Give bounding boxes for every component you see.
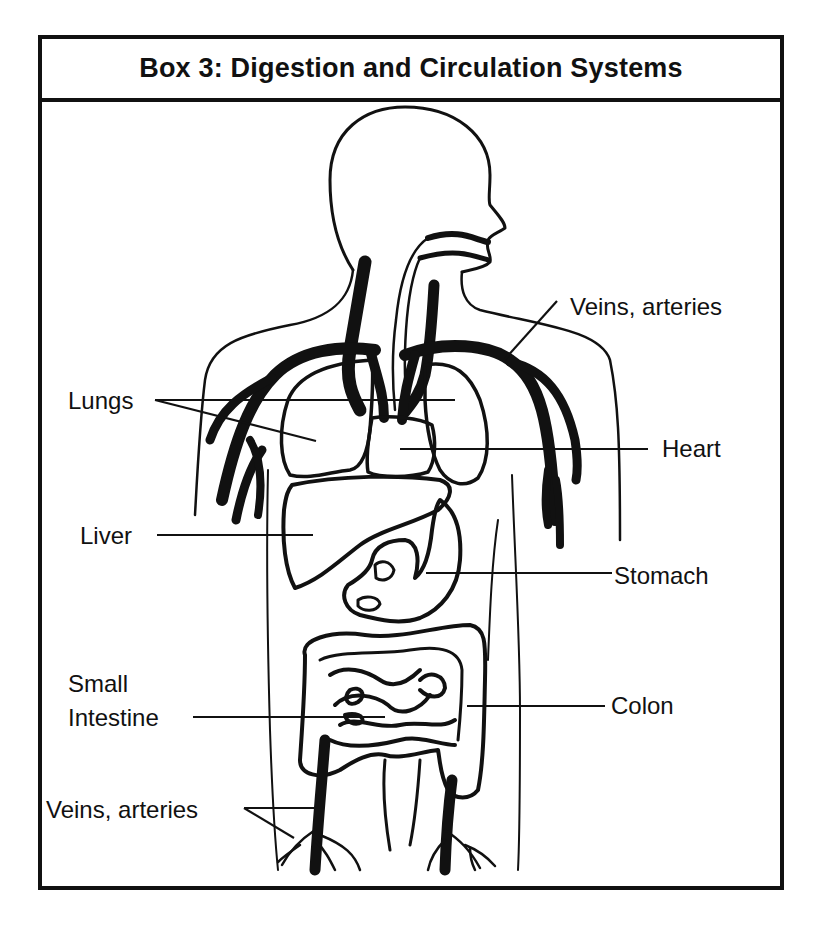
lung-right — [425, 364, 487, 484]
label-small: Small — [68, 672, 128, 696]
stomach-organ — [344, 500, 460, 621]
label-liver: Liver — [80, 524, 132, 548]
leader-veins-top — [505, 301, 557, 359]
small-intestine-coils — [330, 670, 455, 746]
label-veins-arteries-top: Veins, arteries — [570, 295, 722, 319]
label-stomach: Stomach — [614, 564, 709, 588]
leader-veins-bottom-2 — [244, 808, 294, 838]
heart-organ — [367, 417, 434, 477]
anatomy-illustration — [0, 0, 821, 929]
label-veins-arteries-bottom: Veins, arteries — [46, 798, 198, 822]
label-intestine: Intestine — [68, 706, 159, 730]
esophagus — [428, 234, 488, 242]
label-heart: Heart — [662, 437, 721, 461]
lower-vein-right — [445, 780, 452, 870]
label-colon: Colon — [611, 694, 674, 718]
label-lungs: Lungs — [68, 389, 133, 413]
lung-left — [281, 360, 372, 477]
